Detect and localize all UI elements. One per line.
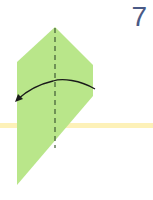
origami-step: 7 — [0, 0, 153, 200]
step-number: 7 — [131, 3, 147, 31]
origami-diagram — [0, 0, 153, 200]
